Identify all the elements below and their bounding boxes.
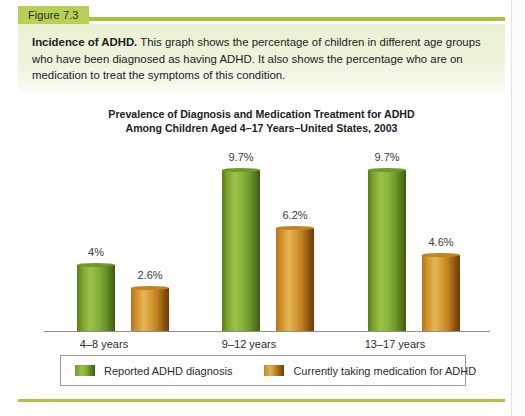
legend-label-diagnosis: Reported ADHD diagnosis — [104, 365, 232, 377]
legend-item-diagnosis: Reported ADHD diagnosis — [75, 365, 232, 377]
bar-cap — [131, 286, 169, 290]
figure-header: Figure 7.3 — [18, 6, 505, 24]
bar-value-medication-13-17: 4.6% — [412, 236, 470, 248]
bar-cap — [222, 168, 260, 172]
bar-cap — [276, 226, 314, 230]
x-axis-label-4-8: 4–8 years — [44, 338, 164, 350]
page-right-margin — [512, 0, 525, 416]
chart-title-line-2: Among Children Aged 4–17 Years–United St… — [18, 122, 505, 136]
bar-medication-4-8 — [131, 288, 169, 331]
figure-caption-box: Incidence of ADHD. This graph shows the … — [18, 24, 505, 96]
bar-diagnosis-13-17 — [368, 170, 406, 331]
x-axis-label-9-12: 9–12 years — [189, 338, 309, 350]
chart-plot-area: 4% 2.6% 9.7% 6.2% 9.7% 4.6% — [44, 150, 490, 332]
figure-caption-text: Incidence of ADHD. This graph shows the … — [32, 34, 491, 84]
bar-cap — [368, 168, 406, 172]
footer-accent-rule — [18, 399, 505, 402]
legend-swatch-green-icon — [75, 365, 95, 376]
legend-label-medication: Currently taking medication for ADHD — [293, 365, 476, 377]
bar-value-diagnosis-4-8: 4% — [67, 246, 125, 258]
legend-swatch-orange-icon — [264, 365, 284, 376]
page-edge-line — [511, 0, 512, 416]
bar-medication-13-17 — [422, 255, 460, 331]
bar-diagnosis-4-8 — [77, 265, 115, 331]
header-accent-rule — [18, 17, 505, 21]
chart-title-line-1: Prevalence of Diagnosis and Medication T… — [18, 108, 505, 122]
bar-cap — [77, 263, 115, 267]
bar-value-medication-4-8: 2.6% — [121, 269, 179, 281]
chart-legend: Reported ADHD diagnosis Currently taking… — [60, 355, 466, 386]
bar-medication-9-12 — [276, 228, 314, 331]
bar-value-diagnosis-13-17: 9.7% — [358, 151, 416, 163]
caption-lead: Incidence of ADHD. — [32, 36, 137, 48]
bar-diagnosis-9-12 — [222, 170, 260, 331]
x-axis-label-13-17: 13–17 years — [335, 338, 455, 350]
figure-number-tab: Figure 7.3 — [18, 6, 89, 24]
x-axis-line — [44, 331, 490, 332]
bar-cap — [422, 253, 460, 257]
legend-item-medication: Currently taking medication for ADHD — [264, 365, 476, 377]
bar-value-medication-9-12: 6.2% — [266, 209, 324, 221]
chart-title: Prevalence of Diagnosis and Medication T… — [18, 108, 505, 135]
bar-value-diagnosis-9-12: 9.7% — [212, 151, 270, 163]
